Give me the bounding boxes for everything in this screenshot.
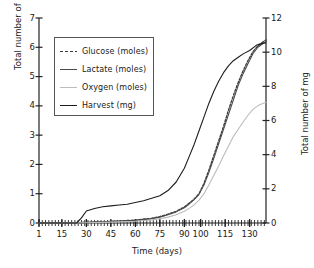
x-axis-tick-label: 60 xyxy=(125,230,145,239)
legend-item: Harvest (mg) xyxy=(55,96,153,114)
legend-swatch-icon xyxy=(60,84,77,91)
legend-label: Lactate (moles) xyxy=(82,65,146,74)
y-axis-right-tick-label: 0 xyxy=(271,219,276,228)
legend-item: Glucose (moles) xyxy=(55,42,153,60)
y-axis-left-tick-label: 3 xyxy=(26,131,35,140)
y-axis-left-title: Total number of moles xyxy=(13,0,23,70)
y-axis-right-tick-label: 4 xyxy=(271,150,276,159)
y-axis-left-tick-label: 0 xyxy=(26,219,35,228)
y-axis-right-tick-label: 8 xyxy=(271,82,276,91)
y-axis-left-tick-label: 6 xyxy=(26,43,35,52)
y-axis-right-title: Total number of mg xyxy=(300,72,310,155)
x-axis-tick-label: 15 xyxy=(52,230,72,239)
x-axis-tick-label: 100 xyxy=(191,230,211,239)
x-axis-tick-label: 115 xyxy=(215,230,235,239)
legend-swatch-icon xyxy=(60,48,77,55)
legend-label: Oxygen (moles) xyxy=(82,83,147,92)
y-axis-right-tick-label: 10 xyxy=(271,48,282,57)
y-axis-left-tick-label: 4 xyxy=(26,101,35,110)
x-axis-tick-label: 45 xyxy=(101,230,121,239)
legend-swatch-icon xyxy=(60,66,77,73)
x-axis-tick-label: 30 xyxy=(76,230,96,239)
x-axis-tick-label: 75 xyxy=(150,230,170,239)
line-chart: 01234567 024681012 115304560759010011513… xyxy=(0,0,314,268)
x-axis-title: Time (days) xyxy=(0,246,314,256)
legend-label: Glucose (moles) xyxy=(82,47,148,56)
y-axis-right-tick-label: 6 xyxy=(271,116,276,125)
x-axis-tick-label: 130 xyxy=(240,230,260,239)
y-axis-left-tick-label: 5 xyxy=(26,72,35,81)
y-axis-right-tick-label: 12 xyxy=(271,14,282,23)
legend: Glucose (moles) Lactate (moles) Oxygen (… xyxy=(54,37,154,116)
y-axis-left-tick-label: 1 xyxy=(26,189,35,198)
legend-item: Lactate (moles) xyxy=(55,60,153,78)
y-axis-left-tick-label: 7 xyxy=(26,14,35,23)
y-axis-left-tick-label: 2 xyxy=(26,160,35,169)
legend-item: Oxygen (moles) xyxy=(55,78,153,96)
y-axis-right-tick-label: 2 xyxy=(271,184,276,193)
legend-label: Harvest (mg) xyxy=(82,101,136,110)
legend-swatch-icon xyxy=(60,102,77,109)
x-axis-tick-label: 1 xyxy=(29,230,49,239)
